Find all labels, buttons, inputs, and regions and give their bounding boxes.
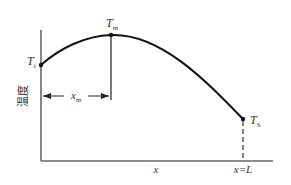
- label-tm: Tm: [106, 16, 119, 32]
- y-axis-label: 温度: [16, 85, 30, 107]
- label-ti: Ti: [27, 54, 36, 70]
- label-ts: TS: [250, 113, 261, 129]
- temperature-profile-diagram: Ti Tm TS xm 温度 x x=L: [0, 0, 291, 185]
- point-ts: [241, 117, 245, 121]
- point-tm: [109, 33, 113, 37]
- x-axis-label: x: [153, 163, 159, 175]
- temperature-curve: [41, 35, 243, 119]
- x-end-label: x=L: [233, 163, 252, 175]
- label-xm: xm: [70, 89, 82, 104]
- point-ti: [39, 63, 43, 67]
